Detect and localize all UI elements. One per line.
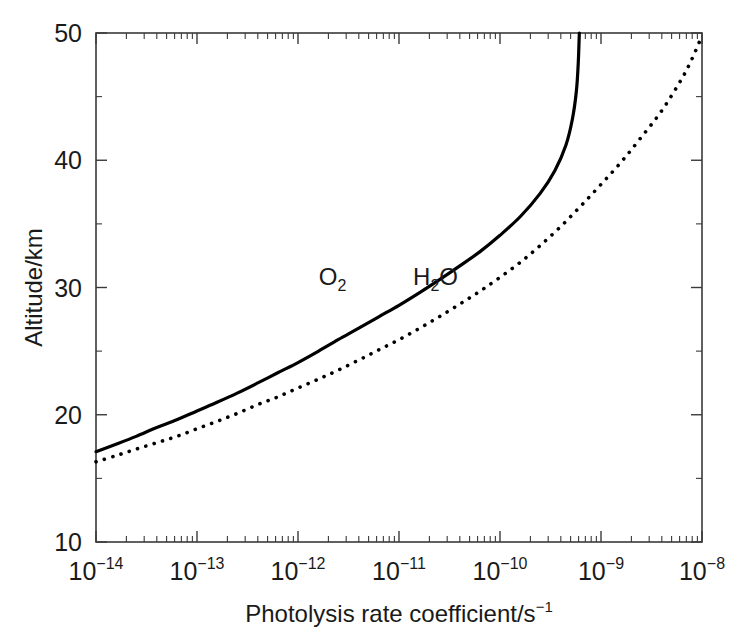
x-axis-title: Photolysis rate coefficient/s−1	[245, 598, 552, 627]
plot-area-background	[96, 33, 702, 542]
y-tick-label: 20	[54, 401, 82, 429]
figure-container: 10−1410−1310−1210−1110−1010−910−8 102030…	[0, 0, 755, 635]
photolysis-rate-chart: 10−1410−1310−1210−1110−1010−910−8 102030…	[0, 0, 755, 635]
y-axis-title: Altitude/km	[20, 228, 47, 347]
y-tick-label: 50	[54, 19, 82, 47]
y-tick-label: 30	[54, 274, 82, 302]
y-tick-label: 40	[54, 146, 82, 174]
y-tick-label: 10	[54, 528, 82, 556]
